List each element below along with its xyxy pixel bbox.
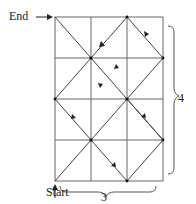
height-label: 4 bbox=[178, 91, 184, 106]
end-label: End bbox=[9, 9, 28, 24]
end-arrow-icon bbox=[36, 14, 53, 20]
grid-path-diagram bbox=[0, 0, 196, 204]
grid-lines bbox=[55, 17, 163, 181]
start-label: Start bbox=[46, 185, 69, 200]
width-brace bbox=[60, 186, 156, 197]
width-label: 3 bbox=[101, 190, 107, 204]
